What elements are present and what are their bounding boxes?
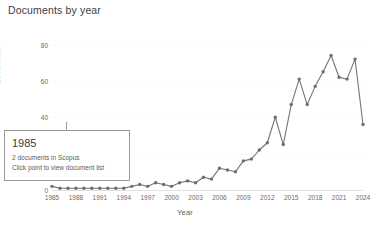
data-point-marker[interactable] [202,176,205,179]
data-point-marker[interactable] [82,186,85,189]
data-point-marker[interactable] [313,85,316,88]
tooltip-year-label: 1985 [12,137,122,150]
data-point-marker[interactable] [345,77,348,80]
data-point-marker[interactable] [250,157,253,160]
data-point-marker[interactable] [66,186,69,189]
tooltip-hint-label[interactable]: Click point to view document list [12,163,122,173]
data-point-marker[interactable] [266,141,269,144]
data-point-marker[interactable] [305,103,308,106]
data-point-marker[interactable] [122,186,125,189]
data-point-marker[interactable] [178,181,181,184]
data-point-marker[interactable] [274,116,277,119]
data-point-marker[interactable] [58,186,61,189]
data-point-marker[interactable] [74,186,77,189]
data-point-marker[interactable] [186,179,189,182]
data-point-marker[interactable] [138,183,141,186]
data-point-marker[interactable] [170,185,173,188]
data-point-marker[interactable] [162,183,165,186]
data-point-marker[interactable] [321,70,324,73]
data-point-marker[interactable] [258,148,261,151]
data-point-tooltip[interactable]: 1985 2 documents in Scopus Click point t… [4,130,130,181]
data-point-marker[interactable] [98,186,101,189]
data-point-marker[interactable] [353,57,356,60]
data-point-marker[interactable] [90,186,93,189]
data-point-marker[interactable] [242,159,245,162]
tooltip-count-label: 2 documents in Scopus [12,153,122,163]
data-point-marker[interactable] [106,186,109,189]
data-point-marker[interactable] [290,103,293,106]
data-point-marker[interactable] [329,54,332,57]
documents-by-year-chart: Documents by year 020406080 Documents 19… [0,0,370,229]
data-point-marker[interactable] [194,181,197,184]
data-point-marker[interactable] [226,168,229,171]
data-point-marker[interactable] [282,143,285,146]
data-point-marker[interactable] [130,185,133,188]
data-point-marker[interactable] [234,170,237,173]
data-point-marker[interactable] [361,123,364,126]
data-point-marker[interactable] [298,77,301,80]
data-series[interactable] [0,0,370,229]
data-point-marker[interactable] [218,166,221,169]
data-point-marker[interactable] [337,76,340,79]
data-point-marker[interactable] [114,186,117,189]
data-point-marker[interactable] [50,185,53,188]
data-point-marker[interactable] [210,177,213,180]
data-point-marker[interactable] [154,181,157,184]
data-point-marker[interactable] [146,185,149,188]
